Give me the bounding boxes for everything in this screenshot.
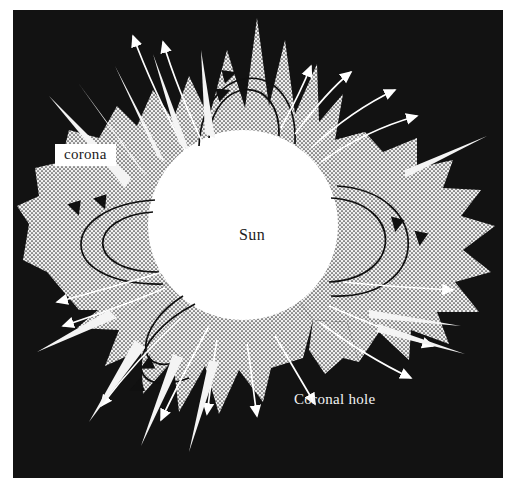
coronal-hole-label: Coronal hole [294, 391, 376, 408]
diagram-panel: corona Sun Coronal hole [13, 10, 503, 478]
diagram-canvas [13, 10, 503, 478]
sun-disk [148, 130, 338, 320]
corona-label: corona [55, 144, 116, 166]
sun-label: Sun [239, 226, 265, 244]
solar-corona-figure: corona Sun Coronal hole [0, 0, 510, 492]
